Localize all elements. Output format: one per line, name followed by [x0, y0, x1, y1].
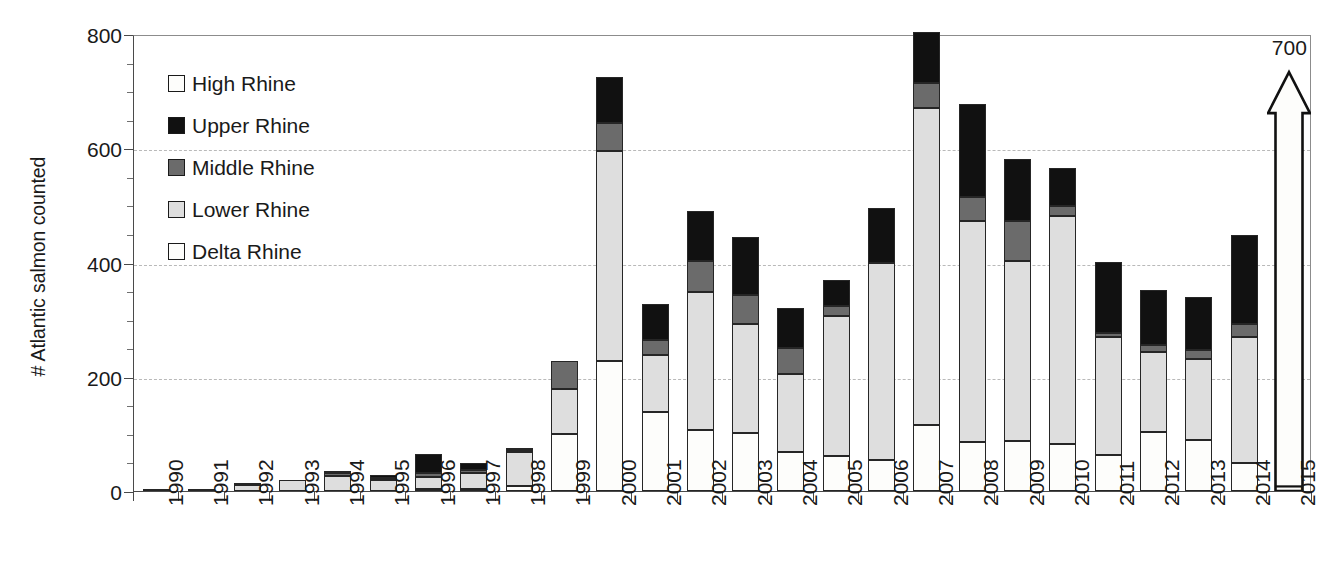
bar-segment-lower-rhine[interactable] — [1231, 337, 1258, 463]
bar-group[interactable] — [868, 34, 895, 491]
bar-segment-upper-rhine[interactable] — [1004, 159, 1031, 221]
bar-segment-lower-rhine[interactable] — [551, 389, 578, 434]
bar-segment-upper-rhine[interactable] — [1231, 235, 1258, 324]
bar-segment-lower-rhine[interactable] — [1004, 261, 1031, 441]
bar-segment-middle-rhine[interactable] — [551, 361, 578, 390]
bar-group[interactable] — [324, 34, 351, 491]
bar-segment-upper-rhine[interactable] — [642, 304, 669, 339]
bar-segment-lower-rhine[interactable] — [642, 355, 669, 412]
x-axis-tick-label: 2011 — [1116, 461, 1137, 506]
x-axis-tick-label: 1991 — [210, 459, 231, 506]
bar-segment-lower-rhine[interactable] — [777, 374, 804, 452]
bar-segment-upper-rhine[interactable] — [596, 77, 623, 123]
legend-item-label: High Rhine — [192, 73, 296, 94]
legend-item-middle-rhine[interactable]: Middle Rhine — [168, 146, 315, 188]
bar-segment-upper-rhine[interactable] — [1140, 290, 1167, 345]
y-axis-minor-tick — [127, 406, 133, 407]
bar-segment-upper-rhine[interactable] — [1049, 168, 1076, 206]
bar-group[interactable] — [370, 34, 397, 491]
bar-segment-lower-rhine[interactable] — [596, 151, 623, 361]
bar-segment-middle-rhine[interactable] — [823, 306, 850, 316]
bar-group[interactable] — [732, 34, 759, 491]
bar-group[interactable] — [1185, 34, 1212, 491]
chart-legend: High RhineUpper RhineMiddle RhineLower R… — [168, 62, 315, 272]
bar-group[interactable] — [551, 34, 578, 491]
legend-swatch-icon — [168, 243, 185, 260]
bar-group[interactable] — [687, 34, 714, 491]
bar-segment-middle-rhine[interactable] — [1049, 206, 1076, 216]
bar-group[interactable] — [460, 34, 487, 491]
bar-group[interactable] — [642, 34, 669, 491]
legend-swatch-icon — [168, 201, 185, 218]
bar-group[interactable] — [415, 34, 442, 491]
bar-segment-upper-rhine[interactable] — [732, 237, 759, 295]
legend-item-lower-rhine[interactable]: Lower Rhine — [168, 188, 315, 230]
bar-segment-lower-rhine[interactable] — [1140, 352, 1167, 433]
bar-segment-lower-rhine[interactable] — [959, 221, 986, 442]
bar-group[interactable] — [823, 34, 850, 491]
legend-item-upper-rhine[interactable]: Upper Rhine — [168, 104, 315, 146]
bar-segment-middle-rhine[interactable] — [1231, 324, 1258, 337]
x-axis-tick-label: 2000 — [618, 459, 639, 506]
y-axis-tick-label: 600 — [2, 139, 122, 160]
bar-segment-middle-rhine[interactable] — [1004, 221, 1031, 260]
bar-segment-middle-rhine[interactable] — [913, 83, 940, 108]
bar-segment-middle-rhine[interactable] — [1140, 345, 1167, 351]
x-axis-tick-label: 2006 — [890, 459, 911, 506]
bar-group[interactable] — [959, 34, 986, 491]
x-axis-tick-label: 1995 — [391, 459, 412, 506]
bar-segment-lower-rhine[interactable] — [868, 263, 895, 460]
bar-segment-upper-rhine[interactable] — [913, 32, 940, 83]
bar-group[interactable] — [506, 34, 533, 491]
bar-segment-middle-rhine[interactable] — [687, 261, 714, 291]
bar-segment-lower-rhine[interactable] — [1095, 337, 1122, 455]
y-axis-minor-tick — [127, 435, 133, 436]
bar-segment-upper-rhine[interactable] — [868, 208, 895, 263]
bar-segment-middle-rhine[interactable] — [1095, 333, 1122, 337]
bar-segment-upper-rhine[interactable] — [1185, 297, 1212, 350]
x-axis-tick-label: 1997 — [482, 459, 503, 506]
bar-group[interactable] — [1140, 34, 1167, 491]
bar-segment-lower-rhine[interactable] — [1049, 216, 1076, 443]
legend-item-label: Delta Rhine — [192, 241, 302, 262]
x-axis-tick-label: 1999 — [572, 459, 593, 506]
bar-group[interactable] — [596, 34, 623, 491]
x-axis-tick — [133, 492, 134, 501]
bar-segment-middle-rhine[interactable] — [596, 123, 623, 152]
salmon-count-stacked-bar-chart: # Atlantic salmon counted 700 0200400600… — [0, 0, 1327, 581]
bar-segment-middle-rhine[interactable] — [1185, 350, 1212, 359]
x-axis-tick-label: 2004 — [799, 459, 820, 506]
bar-segment-upper-rhine[interactable] — [687, 211, 714, 262]
x-axis-tick-label: 2014 — [1252, 459, 1273, 506]
bar-segment-lower-rhine[interactable] — [732, 324, 759, 434]
bar-group[interactable] — [777, 34, 804, 491]
bar-segment-lower-rhine[interactable] — [823, 316, 850, 456]
bar-segment-upper-rhine[interactable] — [1095, 262, 1122, 333]
bar-segment-middle-rhine[interactable] — [642, 340, 669, 355]
bar-segment-lower-rhine[interactable] — [1185, 359, 1212, 440]
bar-group[interactable] — [1004, 34, 1031, 491]
bar-group[interactable] — [143, 34, 170, 491]
gridline — [134, 379, 1310, 380]
bar-group[interactable] — [1095, 34, 1122, 491]
bar-segment-middle-rhine[interactable] — [959, 197, 986, 222]
bar-segment-lower-rhine[interactable] — [913, 108, 940, 426]
bar-segment-upper-rhine[interactable] — [777, 308, 804, 348]
y-axis-minor-tick — [127, 321, 133, 322]
bar-group[interactable]: 700 — [1276, 34, 1303, 491]
bar-segment-middle-rhine[interactable] — [777, 348, 804, 374]
bar-group[interactable] — [913, 34, 940, 491]
x-axis-tick-label: 1994 — [346, 459, 367, 506]
legend-item-high-rhine[interactable]: High Rhine — [168, 62, 315, 104]
bar-segment-lower-rhine[interactable] — [687, 292, 714, 431]
legend-swatch-icon — [168, 117, 185, 134]
y-axis-minor-tick — [127, 64, 133, 65]
bar-segment-upper-rhine[interactable] — [823, 280, 850, 306]
legend-item-delta-rhine[interactable]: Delta Rhine — [168, 230, 315, 272]
bar-segment-upper-rhine[interactable] — [959, 104, 986, 197]
bar-segment-upper-rhine[interactable] — [506, 448, 533, 450]
bar-group[interactable] — [1049, 34, 1076, 491]
x-axis-tick-label: 2013 — [1207, 459, 1228, 506]
bar-segment-middle-rhine[interactable] — [732, 295, 759, 324]
bar-group[interactable] — [1231, 34, 1258, 491]
